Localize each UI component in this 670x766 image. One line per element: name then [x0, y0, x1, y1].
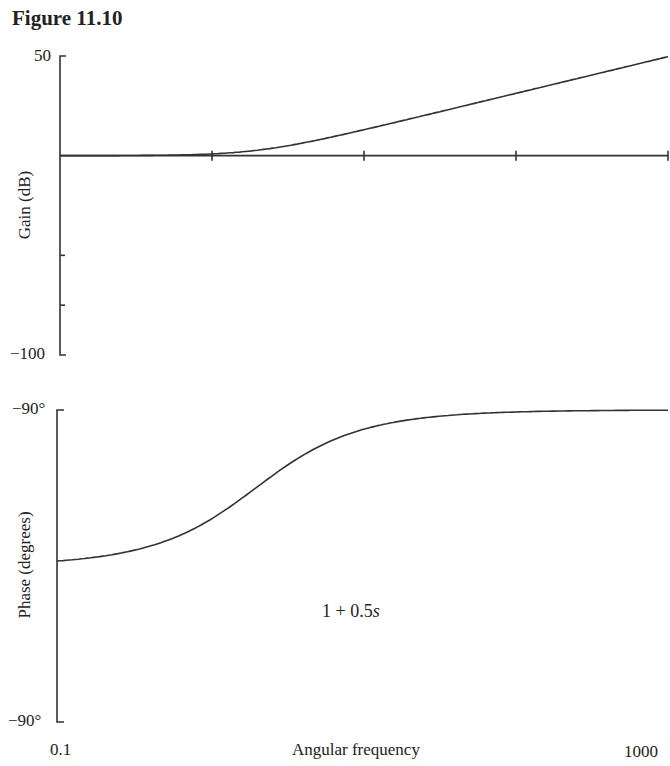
annotation-variable: s — [373, 601, 380, 621]
xtick-max: 1000 — [624, 742, 658, 762]
bode-plot — [0, 0, 670, 766]
annotation-text: 1 + 0.5 — [322, 601, 373, 621]
gain-ylabel: Gain (dB) — [15, 165, 35, 245]
gain-ytick-min: −100 — [10, 344, 45, 364]
phase-ytick-max: −90° — [12, 399, 45, 419]
phase-curve — [57, 410, 668, 561]
phase-ylabel: Phase (degrees) — [15, 500, 35, 630]
gain-curve — [60, 57, 668, 156]
phase-ytick-min: −90° — [8, 711, 41, 731]
x-axis-label: Angular frequency — [292, 740, 420, 760]
phase-axes — [57, 410, 64, 722]
xtick-min: 0.1 — [50, 740, 71, 760]
gain-axes — [60, 56, 668, 355]
gain-ytick-max: 50 — [34, 46, 51, 66]
transfer-function-annotation: 1 + 0.5s — [322, 601, 380, 622]
